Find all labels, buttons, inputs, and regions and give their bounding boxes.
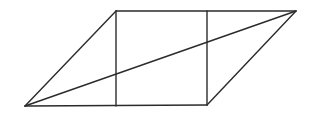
segments-group — [25, 11, 296, 106]
left-edge-line — [25, 11, 116, 106]
right-edge-line — [207, 11, 296, 105]
diagonal-line — [25, 11, 296, 106]
parallelogram-diagram — [0, 0, 315, 128]
